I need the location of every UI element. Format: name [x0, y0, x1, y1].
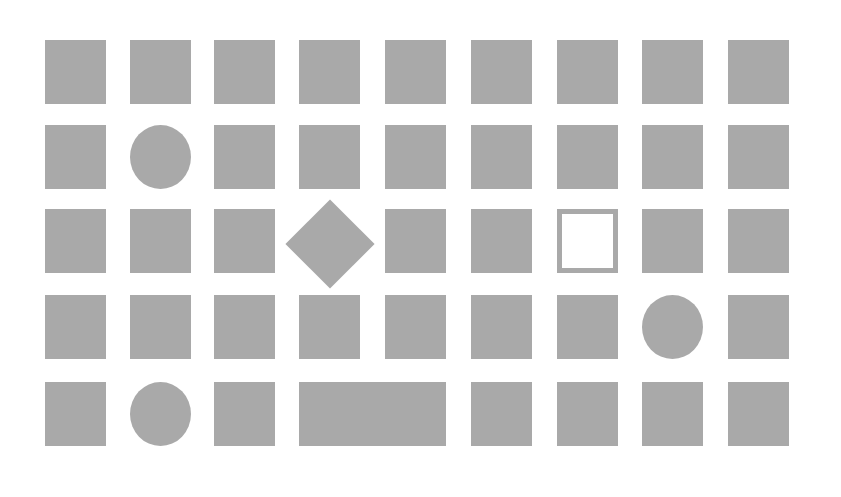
- square-shape: [130, 40, 191, 104]
- shape-grid: [0, 0, 841, 497]
- square-shape: [471, 295, 532, 359]
- square-shape: [728, 209, 789, 273]
- square-shape: [45, 382, 106, 446]
- square-shape: [728, 40, 789, 104]
- square-shape: [299, 125, 360, 189]
- square-shape: [728, 125, 789, 189]
- circle-shape: [130, 382, 191, 446]
- square-shape: [728, 382, 789, 446]
- outline-shape: [557, 209, 618, 273]
- diamond-shape-fill: [285, 199, 374, 288]
- square-shape: [471, 125, 532, 189]
- square-shape: [214, 382, 275, 446]
- circle-shape: [130, 125, 191, 189]
- square-shape: [642, 209, 703, 273]
- square-shape: [45, 209, 106, 273]
- square-shape: [557, 295, 618, 359]
- square-shape: [130, 209, 191, 273]
- square-shape: [557, 40, 618, 104]
- square-shape: [45, 295, 106, 359]
- square-shape: [471, 40, 532, 104]
- square-shape: [299, 295, 360, 359]
- square-shape: [45, 40, 106, 104]
- square-shape: [385, 295, 446, 359]
- square-shape: [642, 40, 703, 104]
- square-shape: [385, 40, 446, 104]
- square-shape: [642, 382, 703, 446]
- square-shape: [471, 382, 532, 446]
- square-shape: [214, 125, 275, 189]
- square-shape: [642, 125, 703, 189]
- circle-shape: [642, 295, 703, 359]
- square-shape: [471, 209, 532, 273]
- square-shape: [214, 295, 275, 359]
- square-shape: [557, 382, 618, 446]
- square-shape: [728, 295, 789, 359]
- square-shape: [214, 40, 275, 104]
- wide-rect-shape: [299, 382, 446, 446]
- square-shape: [385, 209, 446, 273]
- diamond-shape: [286, 197, 374, 290]
- square-shape: [214, 209, 275, 273]
- square-shape: [385, 125, 446, 189]
- square-shape: [557, 125, 618, 189]
- square-shape: [130, 295, 191, 359]
- square-shape: [299, 40, 360, 104]
- square-shape: [45, 125, 106, 189]
